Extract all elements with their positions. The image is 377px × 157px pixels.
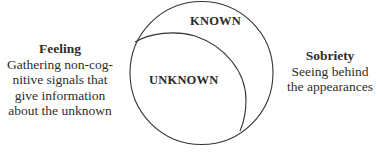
sobriety-annotation: Sobriety Seeing behind the appearances (284, 48, 376, 95)
feeling-title: Feeling (2, 41, 118, 57)
unknown-label: UNKNOWN (149, 73, 218, 88)
feeling-line: about the unknown (2, 103, 118, 119)
known-unknown-diagram: KNOWN UNKNOWN Feeling Gathering non-cog-… (0, 0, 377, 157)
sobriety-line: the appearances (284, 79, 376, 95)
feeling-line: nitive signals that (2, 72, 118, 88)
feeling-annotation: Feeling Gathering non-cog- nitive signal… (2, 41, 118, 119)
sobriety-line: Seeing behind (284, 64, 376, 80)
sobriety-title: Sobriety (284, 48, 376, 64)
feeling-line: give information (2, 88, 118, 104)
feeling-line: Gathering non-cog- (2, 57, 118, 73)
known-label: KNOWN (190, 14, 241, 29)
